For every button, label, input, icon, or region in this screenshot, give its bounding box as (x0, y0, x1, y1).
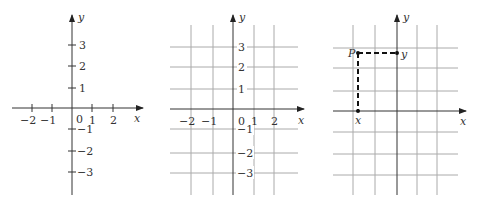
x-tick-label: 2 (110, 114, 117, 127)
y-projection-label: y (400, 48, 408, 61)
x-tick-label: −2 (179, 115, 195, 128)
y-tick-label: 2 (79, 60, 86, 73)
point-p (356, 51, 360, 55)
coordinate-diagrams: y x 0 −2 −1 1 2 3 2 1 −1 −2 −3 (0, 0, 482, 205)
y-tick-label: −3 (77, 166, 93, 179)
y-tick-label: −3 (237, 167, 253, 180)
y-projection-point (395, 51, 399, 55)
grid-lines (170, 25, 298, 195)
y-axis-label: y (402, 11, 410, 24)
x-tick-label: 2 (271, 115, 278, 128)
y-tick-label: 2 (238, 61, 245, 74)
y-tick-label: 1 (79, 82, 86, 95)
projection-dashes (358, 53, 397, 111)
x-tick-label: −1 (40, 114, 56, 127)
y-tick-label: −2 (237, 147, 253, 160)
x-axis-label: x (134, 112, 141, 125)
y-tick-label: −2 (77, 145, 93, 158)
y-tick-label: −1 (77, 123, 93, 136)
y-tick-label: 3 (238, 41, 245, 54)
x-tick-label: −2 (20, 114, 36, 127)
point-p-label: P (347, 47, 356, 60)
y-tick-label: 3 (79, 39, 86, 52)
y-axis-label: y (77, 11, 85, 24)
x-projection-label: x (355, 114, 362, 127)
panel-point-projection (333, 15, 466, 195)
y-tick-label: −1 (237, 123, 253, 136)
x-projection-point (356, 109, 360, 113)
x-tick-label: −1 (201, 115, 217, 128)
y-tick-label: 1 (238, 83, 245, 96)
y-axis-label: y (238, 11, 246, 24)
x-axis-label: x (460, 115, 467, 128)
x-axis-label: x (298, 114, 305, 127)
